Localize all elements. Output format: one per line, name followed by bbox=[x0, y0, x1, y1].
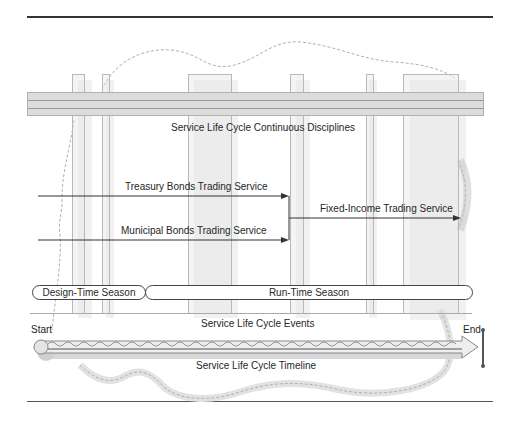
life-cycle-timeline bbox=[0, 0, 512, 438]
life-cycle-timeline-label: Service Life Cycle Timeline bbox=[196, 360, 316, 371]
